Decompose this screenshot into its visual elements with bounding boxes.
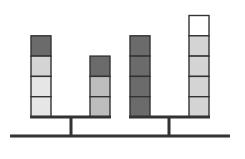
block-light (31, 56, 51, 76)
block-light (189, 36, 209, 56)
right-balance (129, 16, 210, 137)
block-dark (90, 56, 110, 76)
block-dark (130, 36, 150, 56)
block-medium (90, 97, 110, 117)
left-balance (30, 36, 111, 136)
block-dark (31, 36, 51, 56)
block-stack-right (189, 16, 209, 118)
block-lighter (31, 76, 51, 96)
block-light (189, 56, 209, 76)
block-dark (130, 56, 150, 76)
block-lighter (31, 97, 51, 117)
block-stack-left (130, 36, 150, 117)
block-light (189, 76, 209, 96)
block-medium (90, 76, 110, 96)
block-stack-right (90, 56, 110, 117)
block-dark (130, 76, 150, 96)
block-stack-left (31, 36, 51, 117)
balance-diagram (0, 0, 245, 159)
block-light (189, 97, 209, 117)
block-white (189, 16, 209, 36)
block-dark (130, 97, 150, 117)
